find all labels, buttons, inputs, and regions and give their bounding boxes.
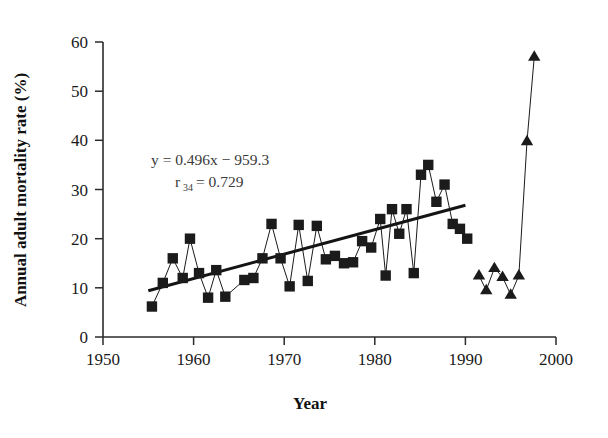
data-point-square: [248, 273, 258, 283]
y-tick-label: 60: [71, 33, 88, 52]
data-point-triangle: [473, 269, 485, 279]
data-point-square: [431, 197, 441, 207]
data-point-square: [239, 275, 249, 285]
chart-figure: 60 50 40 30 20 10 0 1950 1960 1970 1980 …: [0, 0, 608, 438]
data-point-square: [194, 268, 204, 278]
data-point-square: [366, 242, 376, 252]
x-axis-tick-labels: 1950 1960 1970 1980 1990 2000: [86, 350, 573, 369]
data-point-square: [147, 301, 157, 311]
data-point-square: [178, 273, 188, 283]
y-tick-label: 0: [80, 328, 89, 347]
correlation-value: = 0.729: [196, 173, 244, 190]
data-point-square: [321, 254, 331, 264]
data-point-square: [423, 160, 433, 170]
data-point-square: [339, 258, 349, 268]
data-point-square: [168, 253, 178, 263]
y-tick-label: 10: [71, 279, 88, 298]
data-point-square: [294, 220, 304, 230]
y-tick-label: 50: [71, 82, 88, 101]
data-point-triangle: [513, 269, 525, 279]
y-tick-label: 40: [71, 131, 88, 150]
data-point-triangle: [488, 262, 500, 272]
y-axis-title: Annual adult mortality rate (%): [11, 73, 30, 307]
data-point-square: [158, 278, 168, 288]
data-point-square: [312, 221, 322, 231]
x-tick-label: 2000: [539, 350, 573, 369]
data-point-square: [220, 291, 230, 301]
data-point-square: [275, 253, 285, 263]
correlation-coefficient-label: r 34 = 0.729: [175, 173, 244, 193]
data-point-square: [257, 253, 267, 263]
y-axis-ticks: [95, 42, 103, 337]
data-point-square: [284, 281, 294, 291]
x-tick-label: 1990: [448, 350, 482, 369]
x-axis-title: Year: [293, 394, 327, 413]
chart-svg: 60 50 40 30 20 10 0 1950 1960 1970 1980 …: [0, 0, 608, 438]
correlation-r-symbol: r: [175, 173, 181, 190]
data-point-triangle: [480, 284, 492, 294]
data-point-square: [455, 224, 465, 234]
data-point-square: [185, 233, 195, 243]
y-tick-label: 30: [71, 181, 88, 200]
series-1-line: [479, 57, 534, 295]
data-point-square: [394, 229, 404, 239]
data-point-square: [401, 204, 411, 214]
data-point-square: [416, 170, 426, 180]
x-tick-label: 1950: [86, 350, 120, 369]
data-point-square: [375, 214, 385, 224]
data-point-square: [387, 204, 397, 214]
y-tick-label: 20: [71, 230, 88, 249]
data-point-square: [330, 251, 340, 261]
data-point-square: [380, 270, 390, 280]
x-axis-ticks: [103, 337, 556, 345]
data-point-square: [409, 268, 419, 278]
data-point-square: [439, 179, 449, 189]
correlation-subscript: 34: [183, 182, 193, 193]
data-point-triangle: [521, 135, 533, 145]
y-axis-tick-labels: 60 50 40 30 20 10 0: [71, 33, 88, 347]
data-point-square: [348, 257, 358, 267]
data-point-square: [357, 236, 367, 246]
data-point-square: [462, 233, 472, 243]
data-point-triangle: [528, 50, 540, 60]
data-point-square: [211, 265, 221, 275]
data-point-square: [203, 292, 213, 302]
data-point-square: [266, 219, 276, 229]
x-tick-label: 1980: [358, 350, 392, 369]
regression-equation-label: y = 0.496x − 959.3: [151, 151, 269, 168]
x-tick-label: 1970: [267, 350, 301, 369]
data-point-square: [303, 276, 313, 286]
x-tick-label: 1960: [177, 350, 211, 369]
data-point-triangle: [505, 288, 517, 298]
